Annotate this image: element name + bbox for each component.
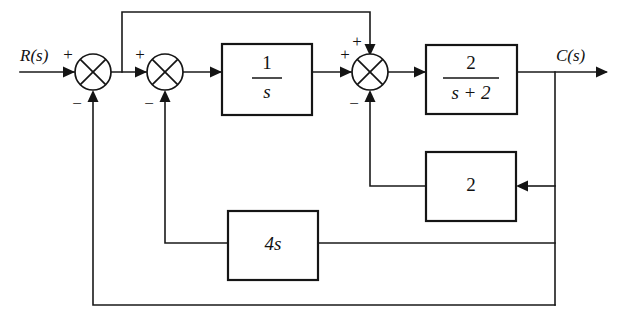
sum3-minus-sign: − <box>349 94 359 113</box>
sum2-plus-sign: + <box>135 45 145 64</box>
gain-2-label: 2 <box>466 174 476 195</box>
arrowhead-into-sum1 <box>63 67 75 78</box>
gain-2-block[interactable]: 2 <box>426 152 516 221</box>
sum2-minus-sign: − <box>144 94 154 113</box>
input-signal-label: R(s) <box>19 46 49 65</box>
arrowhead-into-gain2 <box>516 181 528 192</box>
arrowhead-into-sum3 <box>340 67 352 78</box>
sum3-plus-left-sign: + <box>340 45 350 64</box>
arrowhead-output <box>596 67 608 78</box>
integrator-denominator: s <box>263 81 270 102</box>
arrowhead-gain2-into-sum3 <box>365 90 376 102</box>
summing-junction-1[interactable] <box>75 54 111 90</box>
arrowhead-gain4s-into-sum2 <box>160 90 171 102</box>
plant-block[interactable]: 2 s + 2 <box>426 45 517 114</box>
arrowhead-outer-into-sum1 <box>88 90 99 102</box>
integrator-block[interactable]: 1 s <box>222 44 312 115</box>
block-diagram-figure: 1 s 2 s + 2 2 4s R(s) C(s) + − + − <box>0 0 624 323</box>
gain-4s-label: 4s <box>265 233 282 254</box>
arrowhead-into-sum2 <box>135 67 147 78</box>
summing-junction-3[interactable] <box>352 54 388 90</box>
plant-denominator: s + 2 <box>451 82 491 103</box>
diagram-canvas: 1 s 2 s + 2 2 4s R(s) C(s) + − + − <box>0 0 624 323</box>
plant-numerator: 2 <box>466 52 476 73</box>
wire-gain4s-to-sum2 <box>165 100 228 243</box>
integrator-numerator: 1 <box>262 52 272 73</box>
sum1-plus-sign: + <box>63 45 73 64</box>
sum3-plus-top-sign: + <box>352 32 362 51</box>
summing-junction-2[interactable] <box>147 54 183 90</box>
sum1-minus-sign: − <box>72 94 82 113</box>
gain-4s-block[interactable]: 4s <box>228 211 318 280</box>
arrowhead-into-integrator <box>210 67 222 78</box>
output-signal-label: C(s) <box>556 46 586 65</box>
arrowhead-into-plant <box>414 67 426 78</box>
wire-gain2-to-sum3 <box>370 100 426 186</box>
